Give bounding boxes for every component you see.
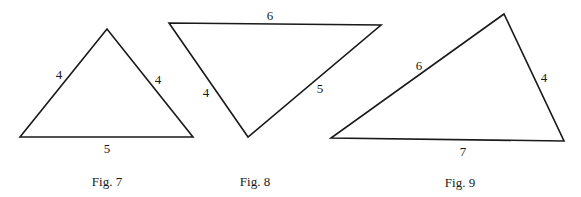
side-label: 7 xyxy=(460,144,467,159)
side-label: 5 xyxy=(104,141,111,156)
side-label: 4 xyxy=(155,72,162,87)
side-label: 4 xyxy=(56,67,63,82)
triangle-fig-7 xyxy=(20,29,193,137)
side-label: 5 xyxy=(317,81,324,96)
triangle-figures-canvas: 4 4 5 Fig. 7 6 4 5 Fig. 8 6 4 7 Fig. 9 xyxy=(0,0,581,197)
figure-9: 6 4 7 Fig. 9 xyxy=(331,14,564,190)
figure-caption: Fig. 9 xyxy=(445,175,475,190)
side-label: 6 xyxy=(416,58,423,73)
side-label: 4 xyxy=(541,70,548,85)
side-label: 6 xyxy=(267,8,274,23)
side-label: 4 xyxy=(203,85,210,100)
triangle-fig-8 xyxy=(169,23,381,137)
figure-caption: Fig. 7 xyxy=(92,174,123,189)
figure-caption: Fig. 8 xyxy=(240,174,270,189)
figure-8: 6 4 5 Fig. 8 xyxy=(169,8,381,189)
figure-7: 4 4 5 Fig. 7 xyxy=(20,29,193,189)
triangle-fig-9 xyxy=(331,14,564,141)
